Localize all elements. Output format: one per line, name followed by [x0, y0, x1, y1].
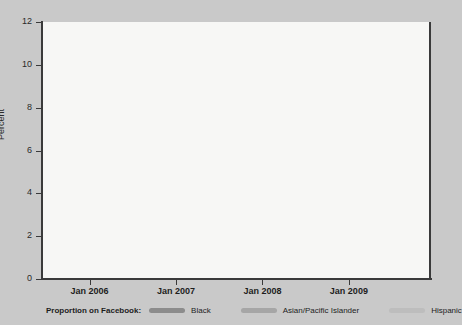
- x-tick-label: Jan 2006: [55, 286, 125, 296]
- y-tick-label: 0: [8, 274, 32, 283]
- x-tick-label: Jan 2007: [141, 286, 211, 296]
- legend-label: Black: [191, 306, 211, 315]
- x-tick-mark: [176, 280, 177, 285]
- legend-swatch-icon: [241, 308, 277, 313]
- y-tick-label: 6: [8, 146, 32, 155]
- x-axis-line: [41, 278, 432, 280]
- y-tick-label: 8: [8, 103, 32, 112]
- y-axis-line: [41, 21, 43, 280]
- legend-item-0: Black: [149, 306, 211, 315]
- legend-label: Hispanic: [431, 306, 462, 315]
- y-tick-mark: [36, 108, 41, 109]
- plot-background: [42, 22, 431, 279]
- y-tick-mark: [36, 22, 41, 23]
- legend-swatch-icon: [149, 308, 185, 313]
- y-tick-mark: [36, 279, 41, 280]
- y-tick-mark: [36, 151, 41, 152]
- x-tick-label: Jan 2008: [227, 286, 297, 296]
- y-tick-label: 4: [8, 188, 32, 197]
- legend-swatch-icon: [389, 308, 425, 313]
- legend-item-2: Hispanic: [389, 306, 462, 315]
- chart-legend: Proportion on Facebook: BlackAsian/Pacif…: [0, 300, 447, 320]
- y-tick-label: 2: [8, 231, 32, 240]
- legend-title: Proportion on Facebook:: [46, 306, 141, 315]
- x-tick-label: Jan 2009: [314, 286, 384, 296]
- plot-area: [42, 22, 431, 279]
- y-axis-label: Percent: [0, 109, 6, 140]
- legend-item-1: Asian/Pacific Islander: [241, 306, 359, 315]
- y-tick-label: 12: [8, 17, 32, 26]
- y-tick-label: 10: [8, 60, 32, 69]
- y-tick-mark: [36, 236, 41, 237]
- x-tick-mark: [349, 280, 350, 285]
- y-tick-mark: [36, 65, 41, 66]
- x-tick-mark: [262, 280, 263, 285]
- x-tick-mark: [90, 280, 91, 285]
- legend-label: Asian/Pacific Islander: [283, 306, 359, 315]
- y-tick-mark: [36, 193, 41, 194]
- legend-items: BlackAsian/Pacific IslanderHispanic: [141, 306, 462, 315]
